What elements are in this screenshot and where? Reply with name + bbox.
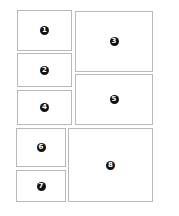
number-badge-4: 4 (40, 103, 49, 112)
panel-5: 5 (75, 74, 153, 125)
panel-4: 4 (17, 90, 72, 125)
number-badge-6: 6 (37, 143, 46, 152)
panel-6: 6 (16, 128, 66, 167)
panel-1: 1 (17, 10, 72, 51)
panel-2: 2 (17, 53, 72, 87)
panel-7: 7 (16, 170, 66, 202)
number-badge-7: 7 (37, 182, 46, 191)
number-badge-8: 8 (106, 161, 115, 170)
number-badge-3: 3 (110, 37, 119, 46)
number-badge-2: 2 (40, 66, 49, 75)
panel-8: 8 (68, 128, 153, 202)
number-badge-1: 1 (40, 26, 49, 35)
number-badge-5: 5 (110, 95, 119, 104)
panel-3: 3 (75, 11, 153, 72)
